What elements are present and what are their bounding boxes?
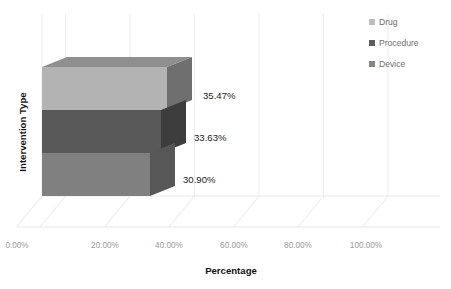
- floor-depth-line-5: [363, 196, 389, 227]
- data-label-drug: 35.47%: [203, 90, 236, 101]
- floor-depth-line-2: [169, 196, 195, 227]
- x-tick-label-0: 0.00%: [5, 241, 28, 250]
- legend-label-procedure: Procedure: [379, 38, 419, 48]
- floor-depth-line-6: [17, 196, 43, 227]
- floor-depth-line-1: [105, 196, 131, 227]
- legend-swatch-procedure: [369, 40, 375, 46]
- x-tick-label-1: 20.00%: [91, 241, 119, 250]
- floor-depth-line-3: [234, 196, 260, 227]
- x-axis-title: Percentage: [205, 265, 257, 276]
- legend: Drug Procedure Device: [369, 17, 419, 69]
- bar-drug-top-face: [42, 57, 192, 67]
- bar-drug-front-face: [42, 67, 167, 110]
- legend-item-device[interactable]: Device: [369, 59, 405, 69]
- y-axis-title: Intervention Type: [17, 92, 28, 171]
- floor-depth-line-0: [40, 196, 66, 227]
- legend-label-drug: Drug: [379, 17, 398, 27]
- bar-procedure-front-face: [42, 110, 161, 153]
- x-tick-label-3: 60.00%: [220, 241, 248, 250]
- bar-drug[interactable]: [42, 57, 192, 110]
- x-axis-tick-labels: 0.00% 20.00% 40.00% 60.00% 80.00% 100.00…: [5, 241, 382, 250]
- legend-swatch-device: [369, 61, 375, 67]
- bar-chart-3d: 35.47% 33.63% 30.90% 0.00% 20.00% 40.00%…: [0, 0, 451, 289]
- data-label-device: 30.90%: [183, 174, 216, 185]
- chart-container: 35.47% 33.63% 30.90% 0.00% 20.00% 40.00%…: [0, 0, 451, 289]
- legend-label-device: Device: [379, 59, 405, 69]
- bar-device-front-face: [42, 153, 150, 196]
- x-tick-label-5: 100.00%: [350, 241, 382, 250]
- legend-item-procedure[interactable]: Procedure: [369, 38, 419, 48]
- data-label-procedure: 33.63%: [194, 132, 227, 143]
- legend-item-drug[interactable]: Drug: [369, 17, 398, 27]
- legend-swatch-drug: [369, 19, 375, 25]
- x-tick-label-4: 80.00%: [284, 241, 312, 250]
- x-tick-label-2: 40.00%: [155, 241, 183, 250]
- floor-depth-line-4: [298, 196, 324, 227]
- floor-perspective: [17, 196, 441, 227]
